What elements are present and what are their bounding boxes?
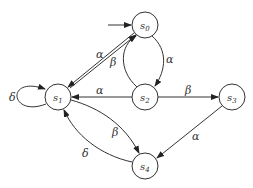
label-s2-s1: α: [96, 84, 104, 97]
label-s2-s3: β: [184, 84, 191, 97]
edge-s1-s0: [70, 35, 136, 88]
node-s0: s0: [132, 12, 158, 38]
label-s0-s2: α: [166, 53, 174, 66]
node-s3: s3: [219, 84, 245, 110]
label-s0-s1: α: [96, 48, 104, 61]
label-s3-s4: α: [192, 130, 200, 143]
edge-s3-s4: [157, 106, 222, 158]
edge-s0-s2: [152, 36, 164, 86]
label-s1-s0: β: [109, 56, 116, 69]
node-s1: s1: [45, 84, 71, 110]
edge-s1-s1: [17, 86, 46, 107]
node-s2: s2: [132, 84, 158, 110]
label-s1-s4: β: [111, 126, 118, 139]
edge-s1-s4: [71, 100, 139, 153]
state-diagram: α β α α β α β δ δ s0 s1 s2 s3 s4: [0, 0, 253, 188]
node-s4: s4: [132, 153, 158, 179]
label-s4-s1: δ: [82, 147, 89, 160]
edge-s4-s1: [64, 110, 132, 162]
label-s1-s1: δ: [9, 91, 16, 104]
